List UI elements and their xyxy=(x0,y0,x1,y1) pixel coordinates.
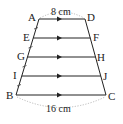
label-H: H xyxy=(97,51,105,63)
label-E: E xyxy=(23,31,30,43)
label-F: F xyxy=(93,31,99,43)
label-B: B xyxy=(6,89,13,101)
parallel-arrow-IJ xyxy=(57,74,62,79)
parallel-arrow-GH xyxy=(57,55,62,60)
parallel-arrow-EF xyxy=(57,36,62,41)
parallel-arrow-AD xyxy=(57,17,62,22)
trapezoid-diagram: A D E F G H I J B C 8 cm 16 cm xyxy=(0,0,123,124)
label-G: G xyxy=(17,50,25,62)
label-C: C xyxy=(108,90,115,102)
label-J: J xyxy=(103,70,108,82)
label-D: D xyxy=(87,11,95,23)
dimension-top-label: 8 cm xyxy=(51,6,71,17)
label-A: A xyxy=(28,11,36,23)
dimension-bottom-label: 16 cm xyxy=(46,103,71,114)
parallel-arrow-BC xyxy=(57,93,62,98)
label-I: I xyxy=(13,69,17,81)
